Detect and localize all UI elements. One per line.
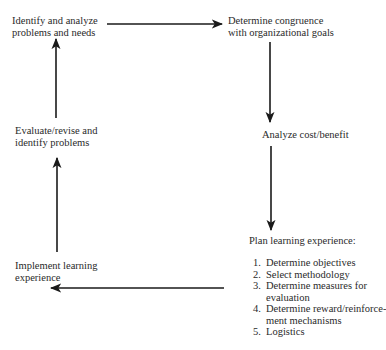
node-evaluate-revise: Evaluate/revise and identify problems xyxy=(15,125,98,149)
node-plan-learning-experience: Plan learning experience: xyxy=(249,235,356,247)
step-text: ment mechanisms xyxy=(266,315,386,327)
step-text: Determine measures for xyxy=(266,280,386,292)
step-text: Select methodology xyxy=(266,269,386,281)
step-number: 2. xyxy=(253,269,261,281)
step-number: 5. xyxy=(253,326,261,338)
step-text: Determine reward/reinforce- xyxy=(266,303,386,315)
node-line: Determine congruence xyxy=(228,15,334,27)
node-determine-congruence: Determine congruence with organizational… xyxy=(228,15,334,39)
node-line: Identify and analyze xyxy=(12,15,98,27)
node-identify-problems: Identify and analyze problems and needs xyxy=(12,15,98,39)
node-line: experience xyxy=(15,272,98,284)
step-number: 3. xyxy=(253,280,261,292)
plan-step: 3. Determine measures for evaluation xyxy=(253,280,386,303)
node-line: with organizational goals xyxy=(228,27,334,39)
step-number: 1. xyxy=(253,257,261,269)
plan-step: 1. Determine objectives xyxy=(253,257,386,269)
node-line: Evaluate/revise and xyxy=(15,125,98,137)
step-number: 4. xyxy=(253,303,261,315)
plan-steps-list: 1. Determine objectives 2. Select method… xyxy=(253,257,386,338)
node-line: identify problems xyxy=(15,137,98,149)
step-text: Determine objectives xyxy=(266,257,386,269)
node-implement-learning: Implement learning experience xyxy=(15,260,98,284)
node-title: Plan learning experience: xyxy=(249,235,356,247)
plan-step: 4. Determine reward/reinforce- ment mech… xyxy=(253,303,386,326)
node-analyze-cost-benefit: Analyze cost/benefit xyxy=(262,129,349,141)
node-line: problems and needs xyxy=(12,27,98,39)
step-text: Logistics xyxy=(266,326,386,338)
node-line: Implement learning xyxy=(15,260,98,272)
step-text: evaluation xyxy=(266,292,386,304)
node-line: Analyze cost/benefit xyxy=(262,129,349,141)
plan-step: 2. Select methodology xyxy=(253,269,386,281)
plan-step: 5. Logistics xyxy=(253,326,386,338)
